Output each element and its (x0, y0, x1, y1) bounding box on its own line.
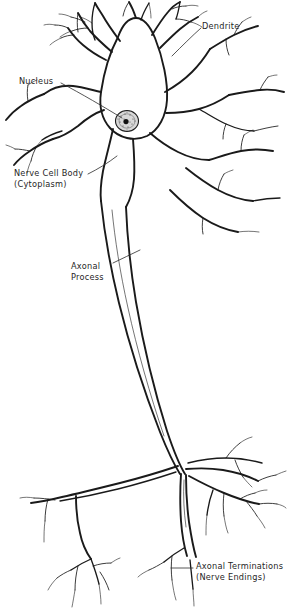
label-nucleus-text: Nucleus (19, 76, 53, 87)
label-dendrite-text: Dendrite (202, 21, 240, 32)
label-cell-body-line2: (Cytoplasm) (14, 179, 83, 190)
label-dendrite: Dendrite (202, 21, 240, 32)
nucleus-group (116, 111, 139, 132)
label-axonal-process: Axonal Process (71, 261, 104, 282)
label-cell-body-line1: Nerve Cell Body (14, 168, 83, 179)
label-terminations-line1: Axonal Terminations (196, 561, 283, 572)
dendrite-branches (6, 2, 284, 234)
label-axonal-line1: Axonal (71, 261, 104, 272)
axonal-process (101, 201, 185, 474)
leader-nucleus (61, 83, 122, 118)
label-terminations-line2: (Nerve Endings) (196, 572, 283, 583)
label-nucleus: Nucleus (19, 76, 53, 87)
label-axonal-line2: Process (71, 272, 104, 283)
neuron-artwork (0, 0, 287, 613)
leader-axonal-process (113, 250, 140, 263)
label-nerve-cell-body: Nerve Cell Body (Cytoplasm) (14, 168, 83, 189)
neuron-figure: Dendrite Nucleus Nerve Cell Body (Cytopl… (0, 0, 287, 613)
label-axonal-terminations: Axonal Terminations (Nerve Endings) (196, 561, 283, 582)
nucleolus-dot (123, 119, 128, 124)
